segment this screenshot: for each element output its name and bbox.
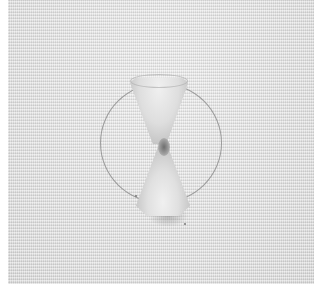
pencil-speck [135, 195, 137, 197]
fabric-photo: Photograph of white linen fabric with a … [8, 0, 314, 284]
ribbon-knot [158, 138, 170, 156]
ribbon-top-rim [130, 74, 188, 88]
pencil-speck [184, 223, 186, 225]
